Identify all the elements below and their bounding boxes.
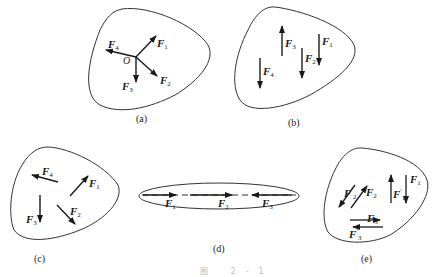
force-label-d-f2: F2 [218, 198, 229, 211]
force-label-d-f1: F1 [165, 198, 176, 211]
panel-b-body [235, 7, 355, 109]
force-label-e-f1: F1 [410, 174, 421, 187]
diagram-canvas [0, 0, 434, 277]
panel-a-caption: (a) [136, 113, 147, 124]
force-label-b-f3: F3 [285, 38, 296, 51]
panel-c-caption: (c) [34, 253, 45, 264]
force-label-e-f2-prime: F′2 [344, 187, 356, 201]
force-label-a-f3: F3 [122, 81, 133, 94]
force-label-e-f2: F2 [366, 187, 377, 200]
force-label-a-f2: F2 [160, 75, 171, 88]
origin-point-label: O [123, 55, 130, 66]
force-label-c-f2: F2 [70, 206, 81, 219]
force-label-b-f1: F1 [322, 36, 333, 49]
force-label-e-f1-prime: F′1 [393, 188, 405, 202]
force-label-c-f1: F1 [89, 178, 100, 191]
panel-a-body [89, 8, 210, 109]
force-label-d-f3: F3 [262, 198, 273, 211]
force-arrow-f1 [70, 176, 88, 196]
force-label-e-f3: F3 [367, 213, 378, 226]
force-label-a-f4: F4 [108, 39, 119, 52]
force-label-b-f2: F2 [305, 53, 316, 66]
force-arrow-f1 [136, 36, 156, 57]
panel-d-caption: (d) [213, 243, 225, 254]
force-label-e-f3-prime: F′3 [349, 228, 361, 242]
force-label-b-f4: F4 [263, 66, 274, 79]
panel-b-caption: (b) [288, 117, 300, 128]
force-label-a-f1: F1 [157, 38, 168, 51]
figure-caption: 图 2-1 [200, 265, 274, 276]
force-label-c-f3: F3 [26, 214, 37, 227]
panel-e-caption: (e) [361, 253, 372, 264]
force-label-c-f4: F4 [42, 166, 53, 179]
force-arrow-f2 [136, 57, 157, 76]
